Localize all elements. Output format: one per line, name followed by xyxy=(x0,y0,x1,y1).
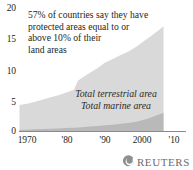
reuters-swirl-icon xyxy=(122,155,135,168)
reuters-credit: REUTERS xyxy=(122,155,190,168)
annotation-line-2: protected areas equal to or xyxy=(28,21,178,33)
x-tick-label-1980: '80 xyxy=(49,136,85,146)
legend-label-terrestrial: Total terrestrial area xyxy=(60,89,172,99)
x-tick-label-2010: '10 xyxy=(157,136,191,146)
x-tick-label-1990: '90 xyxy=(87,136,123,146)
annotation-line-4: land areas xyxy=(28,44,178,56)
chart-annotation: 57% of countries say they have protected… xyxy=(28,9,178,55)
y-tick-label-20: 20 xyxy=(0,4,16,14)
annotation-line-3: above 10% of their xyxy=(28,32,178,44)
legend-label-marine: Total marine area xyxy=(60,101,172,111)
y-tick-label-15: 15 xyxy=(0,35,16,45)
annotation-line-1: 57% of countries say they have xyxy=(28,9,178,21)
y-tick-label-10: 10 xyxy=(0,67,16,77)
reuters-area-chart: 20 15 10 5 0 1970 '80 '90 2000 '10 57% o… xyxy=(0,0,193,170)
y-tick-label-5: 5 xyxy=(0,98,16,108)
x-tick-label-1970: 1970 xyxy=(7,136,47,146)
x-tick-label-2000: 2000 xyxy=(122,136,162,146)
reuters-wordmark: REUTERS xyxy=(137,156,190,168)
